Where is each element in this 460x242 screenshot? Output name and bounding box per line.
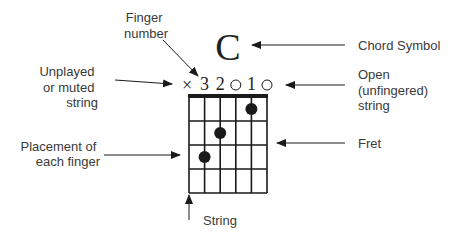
finger-dot bbox=[245, 103, 257, 115]
fret-label: Fret bbox=[358, 136, 382, 151]
finger-number-marker: 3 bbox=[200, 74, 209, 94]
finger-number-marker: 2 bbox=[216, 74, 225, 94]
string-label: String bbox=[203, 213, 237, 228]
finger-dots bbox=[199, 103, 258, 163]
unplayed-string-label: Unplayed or muted string bbox=[39, 64, 98, 110]
nut bbox=[188, 94, 268, 98]
finger-dot bbox=[214, 127, 226, 139]
finger-number-marker: 1 bbox=[247, 74, 256, 94]
chord-symbol-label: Chord Symbol bbox=[358, 38, 440, 53]
muted-string-marker: × bbox=[182, 75, 192, 95]
finger-number-label: Finger number bbox=[124, 10, 169, 41]
chord-symbol: C bbox=[215, 26, 240, 68]
unplayed-arrow bbox=[115, 80, 172, 84]
finger-dot bbox=[199, 151, 211, 163]
finger-number-arrow bbox=[163, 40, 198, 76]
string-markers: ×321 bbox=[182, 74, 272, 95]
open-string-marker bbox=[231, 80, 241, 90]
chord-diagram: C ×321 Finger number Chord Symbol Unplay… bbox=[0, 0, 460, 242]
open-string-label: Open (unfingered) string bbox=[358, 67, 432, 113]
placement-label: Placement of each finger bbox=[21, 139, 101, 169]
open-string-marker bbox=[262, 80, 272, 90]
